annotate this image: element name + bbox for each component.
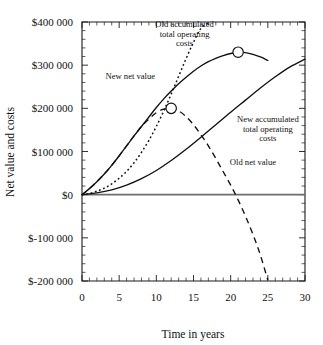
y-tick-label: $200 000 [32, 102, 74, 114]
series-annotations: New net valueOld net valueOld accumulate… [105, 19, 299, 167]
x-tick-label: 25 [262, 291, 274, 303]
x-tick-label: 30 [300, 291, 312, 303]
y-tick-label: $300 000 [32, 59, 74, 71]
marker-old-net-value-peak [166, 103, 176, 113]
y-tick-label: $400 000 [32, 16, 74, 28]
annotation-line: costs [259, 133, 277, 143]
x-tick-label: 15 [188, 291, 200, 303]
x-tick-label: 0 [79, 291, 85, 303]
chart-figure: $400 000$300 000$200 000$100 000$0$-100 … [0, 0, 323, 345]
y-tick-label: $-100 000 [28, 232, 73, 244]
plot-frame [82, 22, 305, 281]
annotation-line: total operating [160, 29, 211, 39]
x-axis-title: Time in years [162, 328, 225, 341]
x-axis-tick-labels: 051015202530 [79, 291, 311, 303]
axis-titles: Time in years Net value and costs [4, 107, 225, 341]
y-tick-label: $0 [62, 189, 74, 201]
y-axis-tick-labels: $400 000$300 000$200 000$100 000$0$-100 … [28, 16, 73, 287]
y-axis-ticks [82, 22, 305, 281]
net-value-and-costs-line-chart: $400 000$300 000$200 000$100 000$0$-100 … [0, 0, 323, 345]
y-tick-label: $-200 000 [28, 275, 73, 287]
x-tick-label: 20 [225, 291, 237, 303]
annotation-new-net-value: New net value [105, 71, 155, 81]
y-tick-label: $100 000 [32, 146, 74, 158]
annotation-line: Old accumulated [155, 19, 214, 29]
marker-new-net-value-peak [233, 47, 243, 57]
x-axis-ticks [82, 22, 305, 281]
annotation-old-accumulated-total-operating-costs: Old accumulatedtotal operatingcosts [155, 19, 214, 48]
annotation-line: Old net value [230, 157, 276, 167]
data-series-layer [82, 22, 305, 280]
annotation-line: New net value [105, 71, 155, 81]
x-tick-label: 10 [151, 291, 163, 303]
x-tick-label: 5 [116, 291, 122, 303]
annotation-line: New accumulated [237, 114, 300, 124]
annotation-line: costs [176, 38, 194, 48]
annotation-line: total operating [243, 124, 294, 134]
data-point-markers [166, 47, 243, 114]
annotation-new-accumulated-total-operating-costs: New accumulatedtotal operatingcosts [237, 114, 300, 143]
annotation-old-net-value: Old net value [230, 157, 276, 167]
y-axis-title: Net value and costs [4, 107, 16, 197]
